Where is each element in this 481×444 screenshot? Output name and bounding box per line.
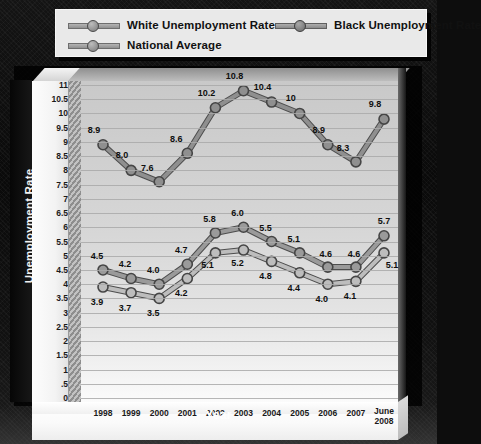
data-point-label: 4.0 [316,294,329,304]
y-tick-label: 6.5 [34,208,68,218]
chart-panel: Unemployment Rate 1110.5109.598.587.576.… [10,62,418,402]
data-point-marker[interactable] [210,103,220,113]
y-tick-label: 8 [34,165,68,175]
gridline [81,85,398,86]
gridline [81,185,398,186]
y-tick-label: 8.5 [34,151,68,161]
data-point-label: 5.1 [287,234,300,244]
data-point-label: 4.6 [320,249,333,259]
data-point-label: 10 [286,93,296,103]
data-point-label: 10.2 [198,88,216,98]
data-point-label: 5.5 [259,223,272,233]
y-tick-label: 2.5 [34,322,68,332]
data-point-marker[interactable] [182,259,192,269]
gridline [81,156,398,157]
y-tick-label: 4.5 [34,265,68,275]
data-point-label: 4.2 [119,259,132,269]
data-point-label: 8.6 [170,134,183,144]
y-tick-label: 9 [34,137,68,147]
data-point-marker[interactable] [351,157,361,167]
data-point-label: 3.9 [91,297,104,307]
y-tick-label: 6 [34,222,68,232]
data-point-label: 5.7 [378,216,391,226]
y-tick-label: 3.5 [34,293,68,303]
gridline [81,270,398,271]
gridline [81,170,398,171]
y-tick-label: 7 [34,194,68,204]
data-point-label: 9.8 [369,99,382,109]
legend-label-national: National Average [127,39,222,51]
gridline [81,242,398,243]
data-point-label: 8.9 [88,125,101,135]
data-point-label: 4.1 [344,291,357,301]
data-point-label: 8.3 [337,143,350,153]
data-point-label: 5.1 [386,260,399,270]
y-tick-label: 7.5 [34,180,68,190]
data-point-marker[interactable] [379,114,389,124]
data-point-label: 4.8 [259,271,272,281]
gridline [81,327,398,328]
legend-item-white[interactable]: White Unemployment Rate [68,19,275,31]
x-axis-title: Year [0,408,437,422]
gridline [81,341,398,342]
gridline [81,313,398,314]
gridline [81,99,398,100]
data-point-label: 4.6 [348,249,361,259]
y-axis-tick-labels: 1110.5109.598.587.576.565.554.543.532.52… [32,81,68,402]
legend-label-white: White Unemployment Rate [127,19,275,31]
plot-area [81,81,398,402]
data-point-label: 3.7 [119,303,132,313]
y-tick-label: 10 [34,108,68,118]
legend-label-black: Black Unemployment Rate [334,19,481,31]
data-point-label: 4.4 [287,283,300,293]
y-tick-label: 4 [34,279,68,289]
legend-marker-black-icon [275,20,327,31]
y-tick-label: 3 [34,308,68,318]
data-point-label: 5.1 [201,260,214,270]
data-point-label: 4.7 [175,245,188,255]
data-point-label: 4.0 [147,265,160,275]
data-point-marker[interactable] [379,231,389,241]
y-tick-label: 1 [34,365,68,375]
gridline [81,113,398,114]
plot-right-edge [398,68,406,402]
gridline [81,142,398,143]
data-point-marker[interactable] [126,273,136,283]
y-axis-title-band: Unemployment Rate [10,80,32,402]
gridline [81,199,398,200]
y-tick-label: 10.5 [34,94,68,104]
data-point-label: 10.8 [226,71,244,81]
gridline [81,384,398,385]
data-point-marker[interactable] [239,86,249,96]
gridline [81,128,398,129]
data-point-label: 10.4 [254,82,272,92]
data-point-label: 6.0 [231,208,244,218]
chart-legend: White Unemployment Rate Black Unemployme… [55,9,427,57]
y-tick-label: 11 [34,80,68,90]
y-tick-label: 5 [34,251,68,261]
data-point-label: 8.9 [313,125,326,135]
legend-marker-white-icon [68,20,120,31]
data-point-marker[interactable] [126,288,136,298]
legend-marker-national-icon [68,40,120,51]
data-point-label: 5.2 [231,258,244,268]
gridline [81,284,398,285]
gridline [81,227,398,228]
y-tick-label: 1.5 [34,350,68,360]
legend-item-national[interactable]: National Average [68,39,278,51]
data-point-label: 5.8 [203,214,216,224]
y-tick-label: 5.5 [34,237,68,247]
gridline [81,398,398,399]
data-point-label: 4.2 [175,288,188,298]
data-point-marker[interactable] [182,273,192,283]
y-tick-label: 2 [34,336,68,346]
data-point-marker[interactable] [210,228,220,238]
gridline [81,355,398,356]
gridline [81,370,398,371]
data-point-marker[interactable] [239,245,249,255]
data-point-label: 8.0 [116,150,129,160]
legend-item-black[interactable]: Black Unemployment Rate [275,19,481,31]
data-point-label: 4.5 [91,251,104,261]
y-tick-label: .5 [34,379,68,389]
data-point-marker[interactable] [267,256,277,266]
